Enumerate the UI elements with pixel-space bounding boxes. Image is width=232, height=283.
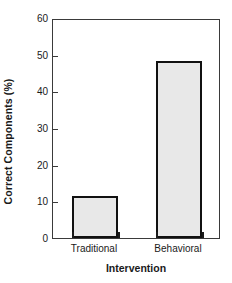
y-tick-mark — [52, 92, 58, 93]
y-tick-label: 50 — [37, 51, 48, 61]
y-tick-mark — [52, 202, 58, 203]
x-tick-mark — [72, 232, 74, 238]
y-tick-mark — [52, 166, 58, 167]
y-tick-label: 10 — [37, 197, 48, 207]
y-tick-label: 40 — [37, 87, 48, 97]
x-tick-label: Behavioral — [128, 243, 228, 254]
bar-behavioral — [156, 61, 202, 238]
x-tick-mark — [156, 232, 158, 238]
x-tick-mark — [202, 232, 204, 238]
y-axis-title: Correct Components (%) — [0, 0, 16, 283]
y-tick-mark — [52, 56, 58, 57]
bar-chart-figure: Correct Components (%) 0102030405060 Tra… — [0, 0, 232, 283]
bar-traditional — [72, 196, 118, 238]
y-tick-mark — [52, 129, 58, 130]
y-tick-label: 60 — [37, 14, 48, 24]
x-tick-mark — [118, 232, 120, 238]
x-axis-title: Intervention — [52, 262, 220, 274]
y-tick-label: 30 — [37, 124, 48, 134]
y-tick-label: 20 — [37, 161, 48, 171]
plot-area — [52, 19, 220, 239]
